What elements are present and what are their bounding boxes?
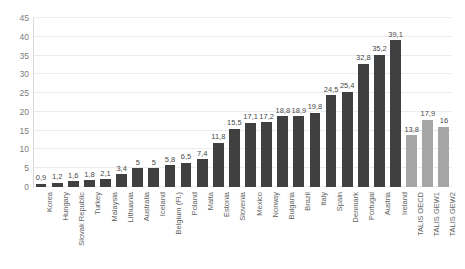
bar-value-label: 16 (440, 117, 448, 125)
x-axis-label-slot: Korea (33, 190, 49, 269)
x-axis-label-slot: Estonia (210, 190, 226, 269)
bar-value-label: 1,8 (84, 171, 94, 179)
x-axis-label-slot: Poland (178, 190, 194, 269)
bar[interactable] (36, 184, 47, 187)
y-axis-tick-label: 10 (3, 145, 29, 154)
bar-slot: 35,2 (371, 18, 387, 187)
bar[interactable] (213, 143, 224, 187)
bar[interactable] (390, 40, 401, 187)
bar[interactable] (310, 113, 321, 187)
bar[interactable] (245, 123, 256, 187)
bar-slot: 16 (436, 18, 452, 187)
x-axis-label-slot: Lithuania (114, 190, 130, 269)
bar[interactable] (100, 179, 111, 187)
bar[interactable] (197, 159, 208, 187)
bar[interactable] (293, 116, 304, 187)
x-axis-label-slot: Austria (371, 190, 387, 269)
bar-slot: 2,1 (97, 18, 113, 187)
bar-value-label: 17,1 (243, 113, 258, 121)
bar-value-label: 6,5 (181, 153, 191, 161)
bar-value-label: 25,4 (340, 82, 355, 90)
bar[interactable] (358, 64, 369, 187)
bar-value-label: 0,9 (36, 174, 46, 182)
bar-slot: 7,4 (194, 18, 210, 187)
bar-slot: 39,1 (388, 18, 404, 187)
x-axis-label-slot: Bulgaria (275, 190, 291, 269)
bar-slot: 32,8 (355, 18, 371, 187)
bar-slot: 1,8 (81, 18, 97, 187)
bar-value-label: 19,8 (308, 103, 323, 111)
x-axis-label-slot: Malta (194, 190, 210, 269)
y-axis-tick-label: 5 (3, 164, 29, 173)
y-axis-tick-label: 35 (3, 51, 29, 60)
bar[interactable] (52, 183, 63, 188)
bar[interactable] (342, 92, 353, 187)
bar-slot: 1,2 (49, 18, 65, 187)
bar-value-label: 1,6 (68, 172, 78, 180)
bar-slot: 5 (130, 18, 146, 187)
bar-value-label: 32,8 (356, 54, 371, 62)
y-axis-tick-label: 0 (3, 183, 29, 192)
bar-slot: 6,5 (178, 18, 194, 187)
bar-slot: 18,8 (275, 18, 291, 187)
bar[interactable] (422, 120, 433, 187)
x-axis-label-slot: Australia (130, 190, 146, 269)
bar-value-label: 11,8 (211, 133, 225, 141)
x-axis-label-slot: Iceland (146, 190, 162, 269)
bar[interactable] (181, 163, 192, 187)
x-axis-label-slot: Portugal (355, 190, 371, 269)
x-axis-label-slot: Mexico (243, 190, 259, 269)
bar-slot: 17,9 (420, 18, 436, 187)
bar-slot: 3,4 (114, 18, 130, 187)
bar[interactable] (68, 181, 79, 187)
y-axis-tick-label: 25 (3, 89, 29, 98)
x-axis-label-slot: Malaysia (97, 190, 113, 269)
bar[interactable] (261, 122, 272, 187)
bar-value-label: 3,4 (116, 165, 126, 173)
bar-value-label: 2,1 (100, 170, 110, 178)
bar-value-label: 13,8 (404, 126, 419, 134)
bar-value-label: 35,2 (372, 45, 387, 53)
x-axis-label-slot: Turkey (81, 190, 97, 269)
bar-value-label: 24,5 (324, 86, 339, 94)
bar-value-label: 17,2 (259, 113, 274, 121)
bar-value-label: 18,8 (275, 107, 290, 115)
bar-slot: 25,4 (339, 18, 355, 187)
x-axis-label-slot: Denmark (339, 190, 355, 269)
x-axis-label-slot: Hungary (49, 190, 65, 269)
bar-slot: 18,9 (291, 18, 307, 187)
bar-value-label: 18,9 (292, 107, 307, 115)
x-axis-label-slot: TALIS GEW1 (420, 190, 436, 269)
bar-slot: 15,5 (226, 18, 242, 187)
y-axis-tick-label: 15 (3, 126, 29, 135)
bar-slot: 5,8 (162, 18, 178, 187)
bar[interactable] (132, 168, 143, 187)
bar-slot: 1,6 (65, 18, 81, 187)
bar[interactable] (148, 168, 159, 187)
bar[interactable] (84, 180, 95, 187)
bar-value-label: 15,5 (227, 119, 242, 127)
x-axis-label-slot: Norway (259, 190, 275, 269)
bar[interactable] (326, 95, 337, 187)
bar[interactable] (165, 165, 176, 187)
bar-value-label: 5,8 (165, 156, 175, 164)
y-axis-tick-label: 45 (3, 14, 29, 23)
bar[interactable] (116, 174, 127, 187)
bar-slot: 17,2 (259, 18, 275, 187)
x-axis-label-slot: Belgium (Fl.) (162, 190, 178, 269)
y-axis-tick-label: 30 (3, 70, 29, 79)
x-axis: KoreaHungarySlovak RepublicTurkeyMalaysi… (33, 190, 452, 269)
bar[interactable] (229, 129, 240, 187)
bar[interactable] (406, 135, 417, 187)
bar-series: 0,91,21,61,82,13,4555,86,57,411,815,517,… (33, 18, 452, 187)
bar-value-label: 5 (136, 159, 140, 167)
x-axis-label-slot: Spain (323, 190, 339, 269)
x-axis-label-slot: Slovenia (226, 190, 242, 269)
bar[interactable] (374, 55, 385, 187)
y-axis-tick-label: 20 (3, 108, 29, 117)
bar-value-label: 7,4 (197, 150, 207, 158)
bar[interactable] (438, 127, 449, 187)
bar-slot: 11,8 (210, 18, 226, 187)
bar-slot: 13,8 (404, 18, 420, 187)
bar[interactable] (277, 116, 288, 187)
